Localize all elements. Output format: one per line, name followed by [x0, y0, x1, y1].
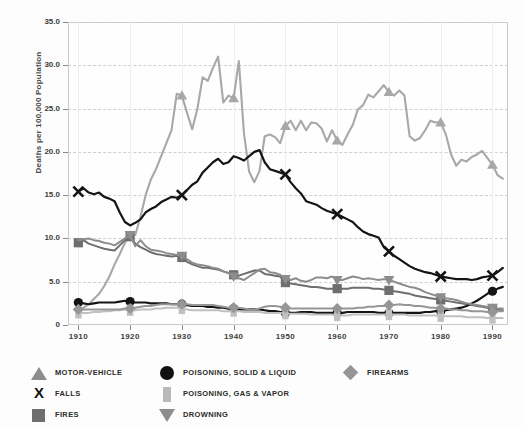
series-marker: [386, 309, 392, 320]
x-tick-mark: [285, 325, 286, 330]
legend-marker-square-dark-icon: [30, 406, 48, 424]
marker-shape: [32, 409, 45, 422]
legend-label: FIRES: [55, 410, 79, 419]
legend-marker-circle-icon: [158, 364, 176, 382]
y-tick-label: 35.0: [0, 17, 60, 26]
y-tick-label: 10.0: [0, 233, 60, 242]
x-tick-mark: [182, 325, 183, 330]
series-marker: [332, 209, 342, 219]
x-tick-mark: [337, 325, 338, 330]
legend-label: DROWNING: [183, 410, 228, 419]
series-marker: [73, 187, 83, 197]
series-marker: [383, 299, 394, 310]
series-marker: [125, 303, 136, 314]
legend-label: POISONING, GAS & VAPOR: [183, 389, 289, 398]
y-tick-mark: [63, 195, 68, 196]
series-canvas: [68, 22, 508, 325]
series-marker: [177, 190, 187, 200]
legend-marker-x-icon: X: [30, 385, 48, 403]
x-tick-label: 1960: [327, 332, 346, 341]
x-tick-label: 1990: [483, 332, 502, 341]
y-tick-mark: [63, 109, 68, 110]
y-tick-label: 30.0: [0, 60, 60, 69]
series-marker: [488, 287, 497, 296]
y-tick-label: 15.0: [0, 190, 60, 199]
y-tick-mark: [63, 238, 68, 239]
chart-figure: Deaths per 100,000 Population 05.010.015…: [0, 0, 525, 427]
legend-marker-diamond-icon: [342, 364, 360, 382]
series-marker: [384, 246, 394, 256]
y-tick-mark: [63, 65, 68, 66]
legend-item-firearms[interactable]: FIREARMS: [342, 362, 409, 383]
x-tick-mark: [441, 325, 442, 330]
series-marker: [384, 286, 393, 295]
x-tick-label: 1930: [172, 332, 191, 341]
legend-label: POISONING, SOLID & LIQUID: [183, 368, 296, 377]
y-tick-mark: [63, 22, 68, 23]
legend-item-falls[interactable]: XFALLS: [30, 383, 122, 404]
legend-label: FALLS: [55, 389, 81, 398]
x-tick-mark: [78, 325, 79, 330]
y-tick-label: 20.0: [0, 147, 60, 156]
legend-label: FIREARMS: [367, 368, 409, 377]
x-marker-icon: X: [30, 384, 48, 402]
legend-marker-triangle-up-icon: [30, 364, 48, 382]
x-tick-label: 1980: [431, 332, 450, 341]
marker-shape: [160, 366, 174, 380]
series-marker: [332, 135, 343, 144]
legend-marker-square-light-icon: [158, 385, 176, 403]
series-falls: [73, 150, 502, 281]
x-tick-label: 1920: [120, 332, 139, 341]
legend-item-fires[interactable]: FIRES: [30, 404, 122, 425]
legend-item-drowning[interactable]: DROWNING: [158, 404, 296, 425]
y-tick-label: 25.0: [0, 104, 60, 113]
chart-legend: MOTOR-VEHICLEXFALLSFIRESPOISONING, SOLID…: [30, 362, 500, 422]
y-tick-mark: [63, 282, 68, 283]
legend-column: FIREARMS: [342, 362, 409, 383]
legend-marker-triangle-down-icon: [158, 406, 176, 424]
legend-item-poisoning-solid-liquid[interactable]: POISONING, SOLID & LIQUID: [158, 362, 296, 383]
x-tick-mark: [130, 325, 131, 330]
x-tick-mark: [389, 325, 390, 330]
legend-label: MOTOR-VEHICLE: [55, 368, 122, 377]
marker-shape: [159, 409, 175, 422]
x-tick-label: 1940: [224, 332, 243, 341]
legend-item-poisoning-gas-vapor[interactable]: POISONING, GAS & VAPOR: [158, 383, 296, 404]
marker-shape: [343, 364, 359, 380]
marker-shape: [31, 367, 47, 380]
x-tick-label: 1950: [276, 332, 295, 341]
x-tick-label: 1910: [69, 332, 88, 341]
y-tick-label: 0: [0, 320, 60, 329]
marker-shape: [163, 387, 171, 402]
x-tick-mark: [234, 325, 235, 330]
x-tick-label: 1970: [379, 332, 398, 341]
legend-column: MOTOR-VEHICLEXFALLSFIRES: [30, 362, 122, 425]
series-marker: [280, 169, 290, 179]
legend-column: POISONING, SOLID & LIQUIDPOISONING, GAS …: [158, 362, 296, 425]
y-tick-mark: [63, 152, 68, 153]
series-marker: [333, 284, 342, 293]
series-marker: [228, 93, 239, 102]
x-tick-mark: [492, 325, 493, 330]
y-tick-mark: [63, 325, 68, 326]
y-tick-label: 5.0: [0, 277, 60, 286]
legend-item-motor-vehicle[interactable]: MOTOR-VEHICLE: [30, 362, 122, 383]
plot-area: [68, 22, 508, 325]
